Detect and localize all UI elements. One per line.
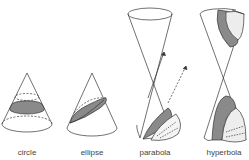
- hyperbola-double-cone: [200, 9, 246, 142]
- label-parabola: parabola: [139, 148, 170, 157]
- label-hyperbola: hyperbola: [206, 148, 241, 157]
- label-circle: circle: [18, 148, 37, 157]
- ellipse-section: [70, 98, 106, 123]
- parabola-arrow-2: [168, 66, 186, 103]
- circle-cone: [2, 73, 52, 132]
- ellipse-cone: [67, 73, 117, 136]
- parabola-double-cone: [128, 8, 187, 140]
- conic-sections-diagram: circle ellipse parabola hyperbola: [0, 0, 249, 160]
- diagram-canvas: [0, 0, 249, 160]
- label-ellipse: ellipse: [81, 148, 104, 157]
